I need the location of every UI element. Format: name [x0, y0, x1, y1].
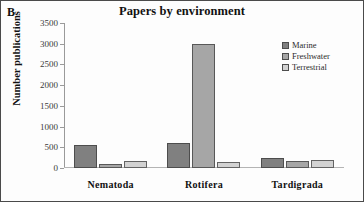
- y-tick-label: 2000: [40, 80, 58, 90]
- bar-marine: [167, 143, 190, 168]
- legend-item-marine[interactable]: Marine: [282, 41, 330, 51]
- category-label: Rotifera: [185, 179, 223, 190]
- legend-label: Terrestrial: [292, 63, 327, 73]
- legend-swatch-icon: [282, 53, 289, 60]
- bar-terrestrial: [217, 162, 240, 168]
- bar-group: [64, 23, 157, 168]
- y-tick-label: 3500: [40, 18, 58, 28]
- bar-terrestrial: [124, 161, 147, 168]
- legend-swatch-icon: [282, 64, 289, 71]
- y-tick-label: 1000: [40, 122, 58, 132]
- category-label: Tardigrada: [272, 179, 324, 190]
- bar-marine: [261, 158, 284, 168]
- category-label: Nematoda: [88, 179, 134, 190]
- bar-freshwater: [286, 161, 309, 168]
- y-tick-label: 0: [54, 163, 59, 173]
- y-tick-label: 3000: [40, 39, 58, 49]
- y-tick-mark: [60, 168, 64, 169]
- bar-terrestrial: [311, 160, 334, 168]
- legend-item-terrestrial[interactable]: Terrestrial: [282, 63, 330, 73]
- chart-title: Papers by environment: [1, 4, 363, 19]
- bar-group: [157, 23, 250, 168]
- bar-freshwater: [192, 44, 215, 168]
- y-tick-label: 1500: [40, 101, 58, 111]
- legend-label: Freshwater: [292, 52, 330, 62]
- chart-figure: B Papers by environment Number publicati…: [0, 0, 364, 202]
- legend: MarineFreshwaterTerrestrial: [282, 41, 330, 72]
- bar-marine: [74, 145, 97, 168]
- legend-swatch-icon: [282, 42, 289, 49]
- y-axis-title: Number publications: [11, 0, 22, 129]
- bar-freshwater: [99, 164, 122, 168]
- legend-label: Marine: [292, 41, 317, 51]
- y-tick-label: 500: [45, 142, 59, 152]
- legend-item-freshwater[interactable]: Freshwater: [282, 52, 330, 62]
- y-tick-label: 2500: [40, 59, 58, 69]
